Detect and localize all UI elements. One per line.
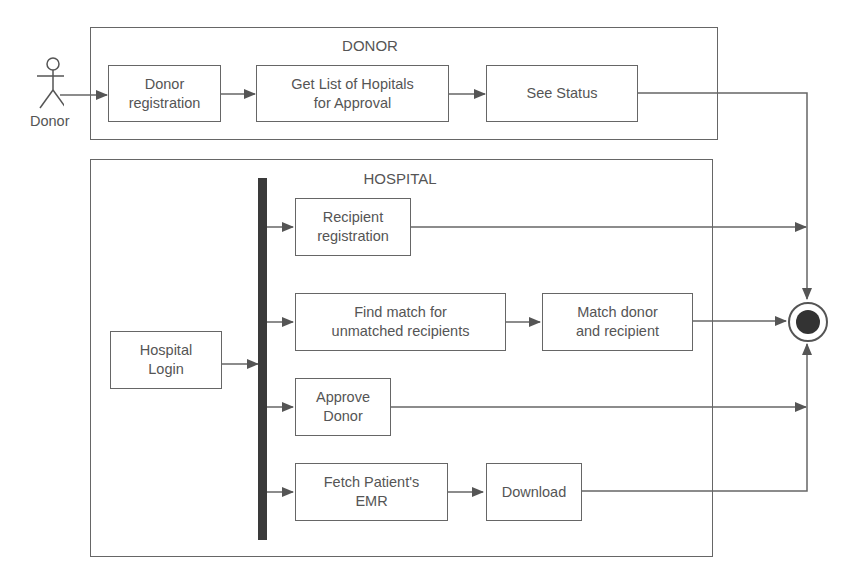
find-match-node[interactable]: Find match for unmatched recipients (295, 293, 506, 351)
fetch-emr-node[interactable]: Fetch Patient's EMR (295, 463, 448, 521)
get-hospitals-node[interactable]: Get List of Hopitals for Approval (256, 65, 449, 122)
download-node[interactable]: Download (486, 463, 582, 521)
recipient-registration-node[interactable]: Recipient registration (295, 198, 411, 256)
donor-lane-title: DONOR (300, 37, 440, 54)
donor-registration-node[interactable]: Donor registration (108, 65, 221, 122)
donor-actor-label: Donor (30, 113, 70, 129)
see-status-node[interactable]: See Status (486, 65, 638, 122)
fork-bar (258, 178, 267, 540)
match-donor-recipient-node[interactable]: Match donor and recipient (542, 293, 693, 351)
donor-actor-icon (32, 56, 64, 116)
hospital-login-node[interactable]: Hospital Login (110, 331, 222, 389)
final-node-dot (796, 310, 820, 334)
hospital-lane-title: HOSPITAL (330, 170, 470, 187)
activity-final-node (788, 302, 828, 342)
approve-donor-node[interactable]: Approve Donor (295, 378, 391, 436)
